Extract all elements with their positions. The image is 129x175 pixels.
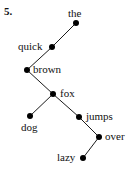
node-dot-quick[interactable]	[49, 44, 55, 50]
edge-fox-dog	[30, 94, 53, 116]
node-dot-lazy[interactable]	[80, 155, 86, 161]
node-dot-brown[interactable]	[24, 67, 30, 73]
node-dot-dog[interactable]	[27, 113, 33, 119]
node-label-over: over	[105, 131, 125, 142]
node-label-fox: fox	[60, 88, 75, 99]
edge-over-lazy	[83, 137, 99, 158]
node-label-the: the	[68, 8, 81, 19]
node-dot-the[interactable]	[73, 20, 79, 26]
node-label-brown: brown	[33, 64, 61, 75]
node-dot-over[interactable]	[96, 134, 102, 140]
node-label-jumps: jumps	[86, 111, 113, 122]
figure-container: 5. thequickbrownfoxdogjumpsoverlazy	[0, 0, 129, 175]
node-label-dog: dog	[21, 122, 38, 133]
node-label-quick: quick	[18, 41, 42, 52]
node-dot-fox[interactable]	[50, 91, 56, 97]
node-dot-jumps[interactable]	[76, 114, 82, 120]
edge-the-quick	[52, 23, 76, 47]
node-label-lazy: lazy	[57, 152, 75, 163]
